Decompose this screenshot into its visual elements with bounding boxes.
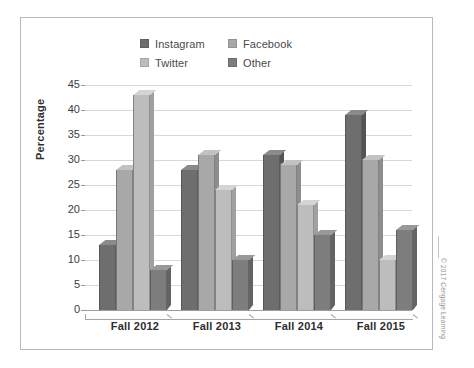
- bar: [314, 235, 331, 310]
- bar: [280, 165, 297, 310]
- legend-row: Twitter Other: [140, 53, 340, 72]
- x-axis-tick-label: Fall 2013: [182, 320, 252, 332]
- floor-top-edge: [85, 310, 412, 311]
- bar-front-face: [99, 245, 116, 310]
- y-axis-tick-label: 10: [52, 253, 80, 265]
- y-axis-tick-label: 25: [52, 178, 80, 190]
- x-axis-tick-labels: Fall 2012Fall 2013Fall 2014Fall 2015: [85, 320, 415, 336]
- legend-swatch-other: [228, 58, 237, 67]
- y-axis-tick-mark: [81, 235, 85, 236]
- bar-front-face: [116, 170, 133, 310]
- y-axis-tick-label: 40: [52, 103, 80, 115]
- bar-front-face: [198, 155, 215, 310]
- bar-front-face: [150, 270, 167, 310]
- legend-item-facebook: Facebook: [228, 34, 292, 53]
- bar-front-face: [297, 205, 314, 310]
- y-axis-tick-label: 35: [52, 128, 80, 140]
- y-axis-tick-label: 5: [52, 278, 80, 290]
- y-axis-tick-label: 30: [52, 153, 80, 165]
- bar-group: [345, 85, 413, 310]
- y-axis-tick-mark: [81, 310, 85, 311]
- bar: [345, 115, 362, 310]
- bar: [150, 270, 167, 310]
- plot-area: [85, 85, 412, 310]
- bar: [362, 160, 379, 310]
- bar-side-face: [413, 225, 417, 310]
- bar-front-face: [280, 165, 297, 310]
- y-axis-tick-label: 15: [52, 228, 80, 240]
- bar: [396, 230, 413, 310]
- y-axis-tick-label: 0: [52, 303, 80, 315]
- bar-side-face: [249, 255, 253, 310]
- bar-side-face: [167, 265, 171, 310]
- bar-front-face: [133, 95, 150, 310]
- bar: [232, 260, 249, 310]
- legend-label-other: Other: [243, 57, 271, 69]
- y-axis-tick-mark: [81, 85, 85, 86]
- bar-group: [181, 85, 249, 310]
- bar: [215, 190, 232, 310]
- bar-front-face: [345, 115, 362, 310]
- bar: [116, 170, 133, 310]
- y-axis-tick-mark: [81, 110, 85, 111]
- bar: [99, 245, 116, 310]
- y-axis-tick-mark: [81, 285, 85, 286]
- bar: [133, 95, 150, 310]
- bar: [181, 170, 198, 310]
- legend-item-other: Other: [228, 53, 271, 72]
- chart-legend: Instagram Facebook Twitter Other: [140, 34, 340, 72]
- legend-swatch-twitter: [140, 58, 149, 67]
- bar-front-face: [314, 235, 331, 310]
- y-axis-tick-mark: [81, 135, 85, 136]
- bar-front-face: [215, 190, 232, 310]
- legend-item-twitter: Twitter: [140, 53, 228, 72]
- y-axis-title: Percentage: [34, 99, 46, 160]
- legend-label-facebook: Facebook: [243, 38, 292, 50]
- bar-group: [263, 85, 331, 310]
- bar-front-face: [362, 160, 379, 310]
- legend-label-instagram: Instagram: [155, 38, 205, 50]
- copyright-notice: © 2017 Cengage Learning: [440, 258, 447, 339]
- bar: [297, 205, 314, 310]
- bar: [263, 155, 280, 310]
- bar-front-face: [396, 230, 413, 310]
- bar-front-face: [263, 155, 280, 310]
- y-axis-tick-mark: [81, 210, 85, 211]
- y-axis-tick-mark: [81, 160, 85, 161]
- y-axis-tick-label: 45: [52, 78, 80, 90]
- legend-row: Instagram Facebook: [140, 34, 340, 53]
- x-axis-tick-label: Fall 2012: [100, 320, 170, 332]
- x-axis-tick-label: Fall 2015: [346, 320, 416, 332]
- y-axis-tick-mark: [81, 260, 85, 261]
- legend-swatch-facebook: [228, 39, 237, 48]
- copyright-divider: [438, 236, 439, 258]
- y-axis-tick-labels: 051015202530354045: [52, 85, 80, 310]
- bar-front-face: [232, 260, 249, 310]
- y-axis-tick-label: 20: [52, 203, 80, 215]
- figure-root: Instagram Facebook Twitter Other Percent…: [0, 0, 474, 368]
- legend-item-instagram: Instagram: [140, 34, 228, 53]
- legend-swatch-instagram: [140, 39, 149, 48]
- bar-side-face: [331, 230, 335, 310]
- bar-group: [99, 85, 167, 310]
- x-axis-tick-label: Fall 2014: [264, 320, 334, 332]
- legend-label-twitter: Twitter: [155, 57, 188, 69]
- y-axis-tick-mark: [81, 185, 85, 186]
- bar: [198, 155, 215, 310]
- bar-front-face: [379, 260, 396, 310]
- bar-front-face: [181, 170, 198, 310]
- bar: [379, 260, 396, 310]
- chart-floor-3d: [85, 310, 417, 319]
